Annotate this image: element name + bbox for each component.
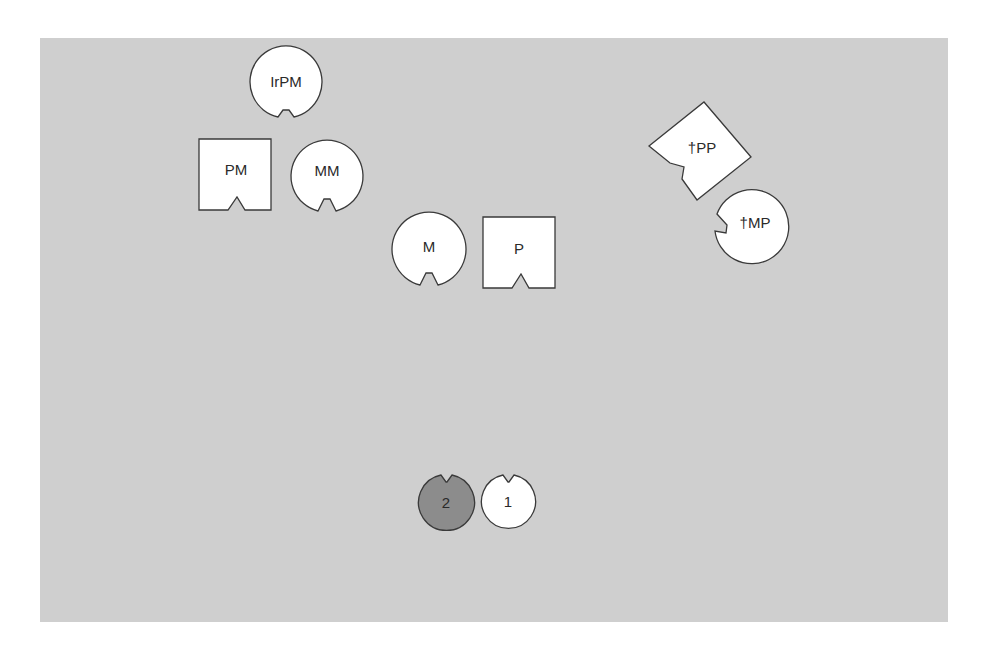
label-irpm: IrPM [270, 73, 302, 90]
shape-dagger-mp: †MP [715, 190, 789, 264]
label-pm: PM [225, 161, 248, 178]
shape-irpm: IrPM [250, 46, 322, 117]
label-p: P [514, 240, 524, 257]
label-2: 2 [442, 494, 450, 511]
shape-pm: PM [199, 139, 271, 210]
shape-1: 1 [482, 475, 536, 528]
diagram-canvas: IrPM PM MM M P †PP †MP 2 1 [0, 0, 984, 654]
label-dagger-pp: †PP [688, 139, 716, 156]
label-m: M [423, 238, 436, 255]
label-dagger-mp: †MP [740, 214, 771, 231]
shape-m: M [392, 212, 466, 285]
shape-p: P [483, 217, 555, 288]
shape-mm: MM [291, 140, 363, 211]
shape-dagger-pp: †PP [649, 102, 751, 200]
label-mm: MM [315, 162, 340, 179]
label-1: 1 [504, 493, 512, 510]
shape-2: 2 [419, 475, 475, 530]
